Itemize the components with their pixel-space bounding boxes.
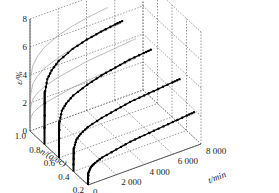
- series-point: [124, 103, 126, 105]
- series-point: [134, 138, 136, 140]
- z-tick-label: 6: [23, 42, 28, 52]
- y-tick-label: 0.2: [73, 185, 84, 193]
- series-point: [134, 99, 136, 101]
- series-point: [72, 94, 74, 96]
- series-point: [73, 158, 75, 160]
- series-point: [109, 26, 111, 28]
- series-point: [106, 154, 108, 156]
- z-tick-label: 8: [23, 14, 28, 24]
- series-point: [96, 160, 98, 162]
- series-point: [116, 22, 118, 24]
- series-line-1: [74, 79, 180, 164]
- series-point: [110, 151, 112, 153]
- series-point: [44, 102, 46, 104]
- series-point: [167, 123, 169, 125]
- series-point: [50, 69, 52, 71]
- series-point: [59, 120, 61, 122]
- series-point: [148, 92, 150, 94]
- series-point: [74, 144, 76, 146]
- series-point: [193, 111, 195, 113]
- x-axis-label: t/min: [206, 169, 227, 185]
- series-point: [63, 105, 65, 107]
- series-point: [172, 121, 174, 123]
- x-tick-label: 2 000: [121, 177, 142, 187]
- series-point: [87, 178, 89, 180]
- series-point: [49, 72, 51, 74]
- series-point: [45, 82, 47, 84]
- series-point: [115, 148, 117, 150]
- chart: 024680.20.40.60.81.002 0004 0006 0008 00…: [0, 0, 279, 193]
- series-point: [101, 156, 103, 158]
- series-point: [73, 146, 75, 148]
- series-point: [145, 51, 147, 53]
- series-point: [77, 91, 79, 93]
- series-point: [90, 36, 92, 38]
- x-tick-label: 0: [93, 187, 98, 193]
- series-point: [124, 143, 126, 145]
- series-point: [95, 33, 97, 35]
- y-tick-label: 0.4: [58, 172, 70, 182]
- series-point: [67, 100, 69, 102]
- series-point: [57, 60, 59, 62]
- series-point: [44, 114, 46, 116]
- series-point: [75, 138, 77, 140]
- series-point: [77, 137, 79, 139]
- series-point: [114, 66, 116, 68]
- series-point: [44, 90, 46, 92]
- series-point: [138, 54, 140, 56]
- series-point: [58, 129, 60, 131]
- series-point: [190, 112, 192, 114]
- x-tick-label: 4 000: [150, 167, 171, 177]
- series-point: [157, 88, 159, 90]
- series-point: [76, 45, 78, 47]
- series-point: [129, 140, 131, 142]
- series-point: [147, 50, 149, 52]
- series-point: [119, 106, 121, 108]
- series-point: [186, 114, 188, 116]
- tick-labels: 024680.20.40.60.81.002 0004 0006 0008 00…: [15, 14, 227, 193]
- floor-grid-line: [74, 131, 187, 172]
- series-point: [133, 56, 135, 58]
- z-axis-label: ε/%: [14, 71, 24, 85]
- series-point: [84, 128, 86, 130]
- series-point: [78, 135, 80, 137]
- y-tick-label: 1.0: [15, 131, 27, 141]
- series-point: [72, 48, 74, 50]
- series-point: [148, 132, 150, 134]
- series-point: [105, 28, 107, 30]
- series-point: [115, 109, 117, 111]
- series-point: [166, 83, 168, 85]
- series-point: [162, 125, 164, 127]
- series-point: [48, 75, 50, 77]
- series-point: [67, 52, 69, 54]
- series-point: [87, 174, 89, 176]
- series-point: [110, 69, 112, 71]
- series-point: [171, 81, 173, 83]
- series-point: [100, 30, 102, 32]
- series-point: [129, 101, 131, 103]
- series-point: [73, 152, 75, 154]
- series-point: [94, 162, 96, 164]
- series-point: [62, 107, 64, 109]
- series-point: [81, 87, 83, 89]
- series-point: [70, 97, 72, 99]
- series-point: [95, 77, 97, 79]
- series-point: [96, 120, 98, 122]
- series-point: [105, 72, 107, 74]
- series-point: [178, 78, 180, 80]
- series-point: [58, 137, 60, 139]
- series-point: [138, 96, 140, 98]
- projected-curves: [30, 8, 136, 129]
- series-point: [45, 86, 47, 88]
- wall-grid-line: [143, 0, 201, 32]
- series-point: [120, 146, 122, 148]
- series-point: [176, 79, 178, 81]
- series-point: [121, 20, 123, 22]
- series-point: [143, 52, 145, 54]
- series-point: [150, 49, 152, 51]
- series-point: [114, 23, 116, 25]
- projected-curve-1: [30, 39, 136, 124]
- projected-curve-3: [30, 8, 108, 115]
- series-point: [86, 84, 88, 86]
- series-point: [58, 146, 60, 148]
